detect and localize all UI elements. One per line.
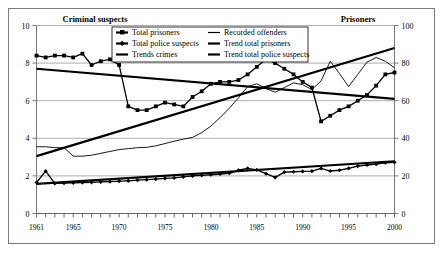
legend-label-0: Total prisoners	[132, 28, 180, 37]
marker-diamond-1-11	[135, 178, 139, 182]
xtick-label-1995: 1995	[341, 223, 356, 232]
chart-figure: 0246810020406080100196119651970197519801…	[0, 0, 443, 260]
marker-square-0-28	[292, 72, 296, 76]
marker-square-0-29	[301, 80, 305, 84]
marker-square-0-8	[108, 57, 112, 61]
marker-diamond-1-13	[154, 177, 158, 181]
marker-diamond-1-30	[310, 169, 314, 173]
marker-square-0-7	[99, 59, 103, 63]
marker-square-0-2	[53, 54, 57, 58]
legend-label-5: Trend total police suspects	[224, 50, 309, 59]
ytick-label-right-40: 40	[402, 134, 410, 143]
marker-diamond-1-25	[264, 172, 268, 176]
marker-square-0-9	[117, 63, 121, 67]
ytick-label-right-0: 0	[402, 210, 406, 219]
ytick-label-left-2: 2	[26, 172, 30, 181]
right-axis-title: Prisoners	[341, 14, 376, 24]
legend-label-3: Trend total prisoners	[224, 39, 290, 48]
marker-square-0-31	[319, 119, 323, 123]
xtick-label-1965: 1965	[66, 223, 81, 232]
marker-square-0-14	[163, 101, 167, 105]
ytick-label-right-80: 80	[402, 59, 410, 68]
marker-square-0-18	[200, 89, 204, 93]
marker-square-0-36	[365, 93, 369, 97]
ytick-label-left-4: 4	[26, 134, 30, 143]
marker-square-0-37	[374, 84, 378, 88]
marker-square-0-0	[35, 54, 39, 58]
marker-square-0-5	[80, 52, 84, 56]
marker-diamond-1-10	[126, 179, 130, 183]
marker-square-0-27	[282, 67, 286, 71]
xtick-label-1985: 1985	[249, 223, 264, 232]
marker-square-0-22	[237, 78, 241, 82]
marker-diamond-1-12	[145, 178, 149, 182]
marker-square-0-1	[44, 56, 48, 60]
xtick-label-1980: 1980	[203, 223, 218, 232]
marker-diamond-1-34	[347, 166, 351, 170]
marker-diamond-1-29	[301, 169, 305, 173]
ytick-label-left-0: 0	[26, 210, 30, 219]
xtick-label-1975: 1975	[158, 223, 173, 232]
trend-line-2	[37, 161, 395, 184]
marker-diamond-1-33	[337, 168, 341, 172]
marker-square-0-4	[71, 56, 75, 60]
ytick-label-right-20: 20	[402, 172, 410, 181]
legend-label-4: Trends crimes	[132, 50, 177, 59]
marker-square-0-33	[338, 108, 342, 112]
xtick-label-1990: 1990	[295, 223, 310, 232]
marker-square-0-12	[145, 108, 149, 112]
marker-square-0-19	[209, 82, 213, 86]
marker-square-0-20	[218, 80, 222, 84]
marker-square-0-3	[62, 54, 66, 58]
xtick-label-1970: 1970	[112, 223, 127, 232]
legend-label-1: Recorded offenders	[224, 28, 287, 37]
marker-square-0-15	[172, 103, 176, 107]
ytick-label-left-8: 8	[26, 59, 30, 68]
marker-square-0-11	[136, 108, 140, 112]
xtick-label-2000: 2000	[387, 223, 402, 232]
marker-square-0-13	[154, 104, 158, 108]
marker-diamond-1-24	[255, 168, 259, 172]
chart-svg: 0246810020406080100196119651970197519801…	[0, 0, 443, 260]
marker-square-0-6	[90, 63, 94, 67]
marker-square-0-34	[347, 104, 351, 108]
marker-square-0-16	[181, 104, 185, 108]
ytick-label-left-6: 6	[26, 97, 30, 106]
marker-square-0-10	[126, 104, 130, 108]
marker-square-0-32	[328, 114, 332, 118]
ytick-label-right-100: 100	[402, 22, 414, 31]
legend-label-2: Total police suspects	[132, 39, 199, 48]
marker-square-0-35	[356, 99, 360, 103]
marker-square-0-17	[191, 95, 195, 99]
marker-diamond-1-28	[291, 170, 295, 174]
marker-square-0-24	[255, 65, 259, 69]
marker-diamond-1-32	[328, 169, 332, 173]
legend-marker-square-0	[120, 30, 124, 34]
marker-square-0-23	[246, 72, 250, 76]
marker-square-0-39	[393, 71, 397, 75]
marker-square-0-21	[227, 80, 231, 84]
ytick-label-right-60: 60	[402, 97, 410, 106]
trend-line-0	[37, 69, 395, 99]
marker-square-0-38	[383, 72, 387, 76]
ytick-label-left-10: 10	[22, 22, 30, 31]
xtick-label-1961: 1961	[29, 223, 44, 232]
left-axis-title: Criminal suspects	[63, 14, 129, 24]
